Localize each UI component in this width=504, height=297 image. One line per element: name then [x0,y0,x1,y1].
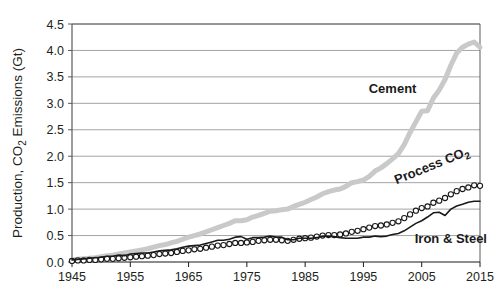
cement-label: Cement [369,81,417,96]
y-tick-label: 1.5 [47,176,64,190]
y-axis-title: Production, CO2 Emissions (Gt) [10,48,28,238]
series-marker [250,239,255,244]
series-marker [378,223,383,228]
series-marker [268,237,273,242]
series-marker [338,232,343,237]
series-marker [157,251,162,256]
series-marker [384,222,389,227]
series-marker [448,192,453,197]
annot-text: Process CO [392,146,466,188]
series-marker [466,185,471,190]
series-marker [367,225,372,230]
y-tick-label: 3.5 [47,70,64,84]
series-marker [209,244,214,249]
y-tick-label: 2.0 [47,150,64,164]
y-tick-label: 1.0 [47,203,64,217]
y-tick-label: 2.5 [47,123,64,137]
series-marker [472,183,477,188]
series-marker [163,251,168,256]
chart-canvas: 0.00.51.01.52.02.53.03.54.04.51945195519… [0,0,504,297]
series-marker [145,253,150,258]
x-tick-label: 1955 [116,270,144,284]
series-marker [134,254,139,259]
series-marker [361,227,366,232]
series-marker [192,247,197,252]
x-tick-label: 2005 [408,270,436,284]
series-marker [355,228,360,233]
y-tick-label: 4.5 [47,18,64,32]
series-marker [186,248,191,253]
series-marker [221,242,226,247]
series-marker [227,241,232,246]
series-marker [256,238,261,243]
series-marker [203,245,208,250]
series-line [72,42,480,260]
y-tick-label: 0.5 [47,229,64,243]
series-marker [116,256,121,261]
series-marker [431,200,436,205]
series-marker [454,189,459,194]
x-tick-label: 2015 [466,270,494,284]
series-marker [244,240,249,245]
series-marker [215,243,220,248]
series-marker [198,246,203,251]
y-axis-title-post: Emissions (Gt) [10,48,25,140]
series-marker [168,250,173,255]
y-tick-label: 4.0 [47,44,64,58]
chart-figure: 0.00.51.01.52.02.53.03.54.04.51945195519… [0,0,504,297]
series-marker [402,216,407,221]
series-marker [477,183,482,188]
series-marker [110,256,115,261]
series-marker [233,240,238,245]
series-marker [174,249,179,254]
series-cement [72,42,480,260]
series-marker [419,205,424,210]
series-marker [372,223,377,228]
x-tick-label: 1965 [175,270,203,284]
series-marker [151,253,156,258]
series-marker [262,238,267,243]
x-tick-label: 1995 [350,270,378,284]
series-marker [425,204,430,209]
y-axis-title-pre: Production, CO [10,146,25,238]
series-marker [460,186,465,191]
iron-steel-label: Iron & Steel [415,231,487,246]
x-tick-label: 1945 [58,270,86,284]
series-marker [407,212,412,217]
series-marker [238,240,243,245]
plot-frame [72,24,480,262]
x-tick-label: 1985 [291,270,319,284]
series-marker [343,231,348,236]
x-axis: 19451955196519751985199520052015 [58,262,494,284]
y-axis: 0.00.51.01.52.02.53.03.54.04.5 [47,18,72,270]
gridlines [72,24,480,236]
series-marker [180,248,185,253]
series-marker [442,195,447,200]
series-marker [396,219,401,224]
series-marker [413,208,418,213]
y-tick-label: 0.0 [47,256,64,270]
series-marker [437,198,442,203]
series-marker [139,254,144,259]
series-marker [128,255,133,260]
x-tick-label: 1975 [233,270,261,284]
y-axis-title-text: Production, CO2 Emissions (Gt) [10,48,28,238]
y-tick-label: 3.0 [47,97,64,111]
series-marker [349,229,354,234]
series-marker [390,220,395,225]
series-marker [273,237,278,242]
